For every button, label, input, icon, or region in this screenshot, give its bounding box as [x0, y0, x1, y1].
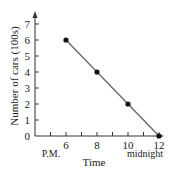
data-point — [125, 101, 130, 106]
x-axis-label: Time — [83, 156, 106, 168]
y-tick-label: 3 — [25, 82, 31, 94]
line-chart: 01234567681012 Time Number of cars (100s… — [0, 0, 172, 177]
axis-labels: Time Number of cars (100s) P.M. midnight — [8, 26, 163, 168]
data-line — [66, 40, 159, 136]
y-tick-label: 0 — [25, 130, 31, 142]
data-point — [94, 69, 99, 74]
data-series — [63, 37, 161, 138]
y-tick-label: 4 — [25, 66, 31, 78]
axes: 01234567681012 — [25, 11, 173, 151]
y-tick-label: 2 — [25, 98, 31, 110]
y-tick-label: 5 — [25, 50, 31, 62]
y-axis-label: Number of cars (100s) — [8, 26, 21, 126]
y-axis-arrow-icon — [33, 11, 38, 18]
y-tick-label: 6 — [25, 34, 31, 46]
data-point — [63, 37, 68, 42]
x-sublabel-pm: P.M. — [42, 148, 60, 159]
data-point — [156, 133, 161, 138]
y-tick-label: 1 — [25, 114, 31, 126]
y-tick-label: 7 — [25, 18, 31, 30]
x-tick-label: 8 — [94, 139, 100, 151]
x-tick-label: 6 — [63, 139, 69, 151]
x-sublabel-midnight: midnight — [127, 148, 163, 159]
